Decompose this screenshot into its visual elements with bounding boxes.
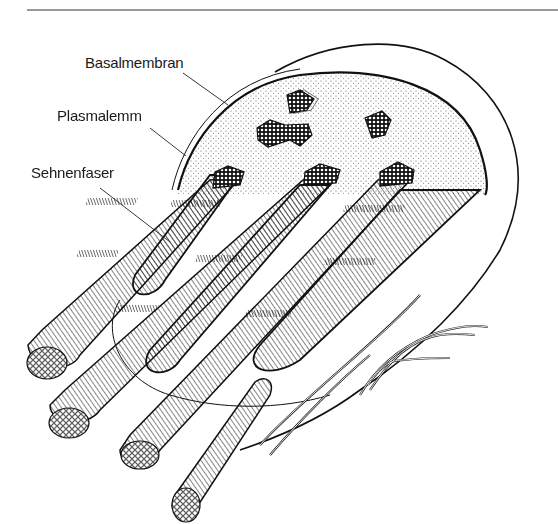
leader-basalmembran [183, 73, 228, 105]
diagram-canvas: Basalmembran Plasmalemm Sehnenfaser [0, 0, 558, 524]
label-plasmalemm: Plasmalemm [57, 108, 142, 123]
tendon-illustration [0, 0, 558, 524]
leader-sehnenfaser [100, 188, 170, 242]
tendon-fibers [27, 162, 480, 522]
leader-plasmalemm [150, 128, 186, 156]
label-basalmembran: Basalmembran [85, 55, 183, 70]
label-sehnenfaser: Sehnenfaser [31, 165, 114, 180]
